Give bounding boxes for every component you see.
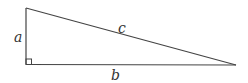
label-a: a [14,29,22,45]
side-c-hypotenuse [26,8,236,65]
side-b [26,65,236,66]
right-triangle-diagram: a c b [0,0,248,83]
label-c: c [118,20,126,36]
label-b: b [111,67,120,83]
right-angle-marker [26,59,32,65]
